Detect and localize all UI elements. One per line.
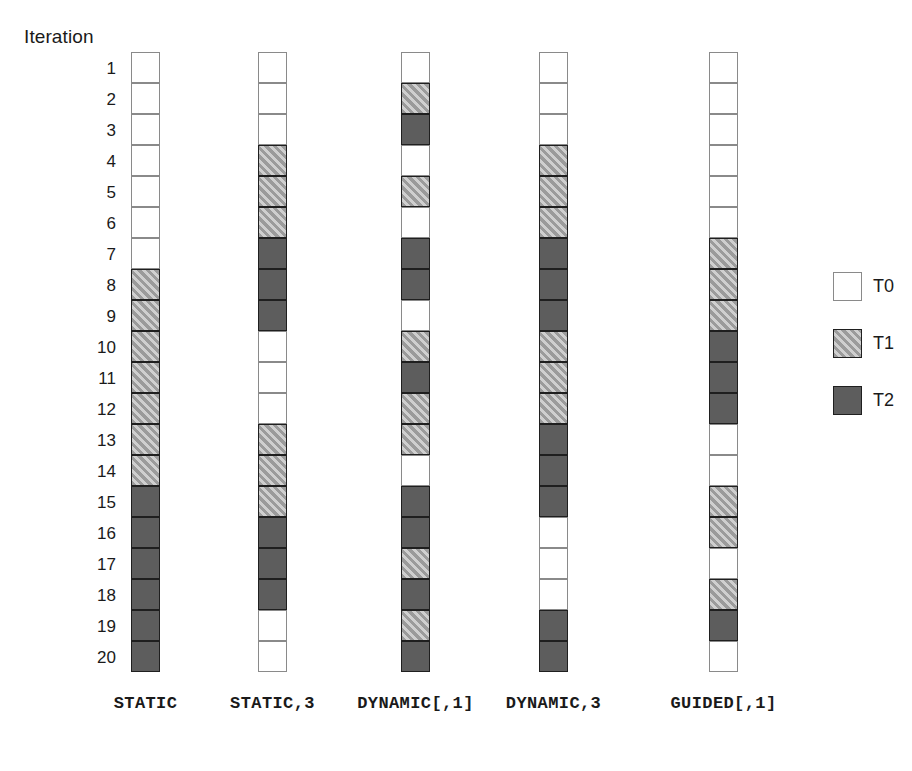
cell	[131, 486, 160, 517]
column-static	[131, 52, 160, 672]
cell	[131, 269, 160, 300]
cell	[258, 331, 287, 362]
cell	[131, 52, 160, 83]
cell	[258, 176, 287, 207]
iteration-schedule-chart: Iteration 123456789101112131415161718192…	[0, 0, 912, 771]
legend-item-t2: T2	[833, 386, 907, 416]
cell	[401, 393, 430, 424]
y-tick-label: 9	[40, 308, 116, 325]
cell	[539, 579, 568, 610]
cell	[401, 641, 430, 672]
y-tick-label: 5	[40, 184, 116, 201]
cell	[401, 207, 430, 238]
cell	[401, 486, 430, 517]
cell	[709, 486, 738, 517]
cell	[539, 362, 568, 393]
column-label: DYNAMIC,3	[506, 694, 601, 713]
y-axis-tick-labels: 1234567891011121314151617181920	[40, 52, 116, 672]
cell	[258, 145, 287, 176]
cell	[401, 424, 430, 455]
cell	[539, 393, 568, 424]
cell	[131, 300, 160, 331]
cell	[709, 300, 738, 331]
y-tick-label: 8	[40, 277, 116, 294]
cell	[131, 455, 160, 486]
cell	[709, 641, 738, 672]
cell	[258, 517, 287, 548]
cell	[258, 300, 287, 331]
column-label: STATIC,3	[230, 694, 315, 713]
cell	[131, 238, 160, 269]
y-tick-label: 20	[40, 649, 116, 666]
legend-swatch-icon	[833, 272, 862, 301]
y-axis-title: Iteration	[24, 26, 94, 48]
column-label: DYNAMIC[,1]	[357, 694, 474, 713]
cell	[539, 269, 568, 300]
y-tick-label: 10	[40, 339, 116, 356]
cell	[401, 517, 430, 548]
cell	[709, 83, 738, 114]
cell	[539, 610, 568, 641]
cell	[709, 331, 738, 362]
cell	[258, 486, 287, 517]
cell	[539, 238, 568, 269]
cell	[131, 610, 160, 641]
y-tick-label: 13	[40, 432, 116, 449]
y-tick-label: 12	[40, 401, 116, 418]
y-tick-label: 4	[40, 153, 116, 170]
column-label: GUIDED[,1]	[670, 694, 776, 713]
legend-swatch-icon	[833, 386, 862, 415]
y-tick-label: 11	[40, 370, 116, 387]
cell	[258, 207, 287, 238]
cell	[401, 455, 430, 486]
cell	[401, 331, 430, 362]
cell	[709, 145, 738, 176]
legend-item-t0: T0	[833, 272, 907, 302]
cell	[539, 52, 568, 83]
cell	[131, 207, 160, 238]
y-tick-label: 1	[40, 60, 116, 77]
y-tick-label: 16	[40, 525, 116, 542]
cell	[401, 362, 430, 393]
cell	[401, 548, 430, 579]
legend-item-t1: T1	[833, 329, 907, 359]
cell	[131, 393, 160, 424]
cell	[401, 52, 430, 83]
y-tick-label: 6	[40, 215, 116, 232]
cell	[131, 114, 160, 145]
cell	[131, 548, 160, 579]
cell	[539, 424, 568, 455]
legend-label: T2	[873, 390, 894, 410]
cell	[131, 362, 160, 393]
cell	[401, 114, 430, 145]
cell	[539, 455, 568, 486]
cell	[539, 300, 568, 331]
cell	[709, 548, 738, 579]
legend-label: T1	[873, 333, 894, 353]
column-guided-1	[709, 52, 738, 672]
cell	[258, 83, 287, 114]
cell	[709, 52, 738, 83]
cell	[131, 424, 160, 455]
legend-swatch-icon	[833, 329, 862, 358]
cell	[709, 517, 738, 548]
cell	[539, 486, 568, 517]
cell	[709, 424, 738, 455]
cell	[258, 269, 287, 300]
cell	[401, 145, 430, 176]
y-tick-label: 17	[40, 556, 116, 573]
cell	[709, 393, 738, 424]
cell	[258, 393, 287, 424]
cell	[258, 238, 287, 269]
cell	[709, 269, 738, 300]
cell	[131, 83, 160, 114]
column-dynamic-1	[401, 52, 430, 672]
cell	[539, 114, 568, 145]
y-tick-label: 3	[40, 122, 116, 139]
cell	[539, 331, 568, 362]
cell	[401, 176, 430, 207]
cell	[258, 610, 287, 641]
cell	[709, 114, 738, 145]
legend-label: T0	[873, 276, 894, 296]
cell	[258, 424, 287, 455]
